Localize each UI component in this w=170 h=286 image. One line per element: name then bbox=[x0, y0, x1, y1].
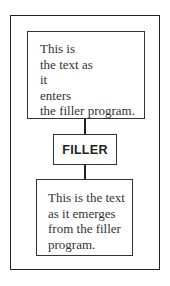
output-line: This is the text bbox=[48, 190, 132, 206]
input-line: the text as bbox=[40, 57, 144, 73]
filler-process-box: FILLER bbox=[53, 134, 117, 165]
output-line: from the filler bbox=[48, 221, 132, 237]
output-text-box: This is the text as it emerges from the … bbox=[36, 179, 133, 256]
input-line: it bbox=[40, 72, 144, 88]
output-line: program. bbox=[48, 237, 132, 253]
input-line: the filler program. bbox=[40, 103, 144, 119]
input-line: This is bbox=[40, 41, 144, 57]
input-line: enters bbox=[40, 88, 144, 104]
connector-input-to-filler bbox=[84, 119, 86, 134]
input-text-box: This is the text as it enters the filler… bbox=[27, 31, 145, 119]
output-line: as it emerges bbox=[48, 206, 132, 222]
connector-filler-to-output bbox=[84, 165, 86, 179]
filler-label: FILLER bbox=[62, 143, 108, 157]
